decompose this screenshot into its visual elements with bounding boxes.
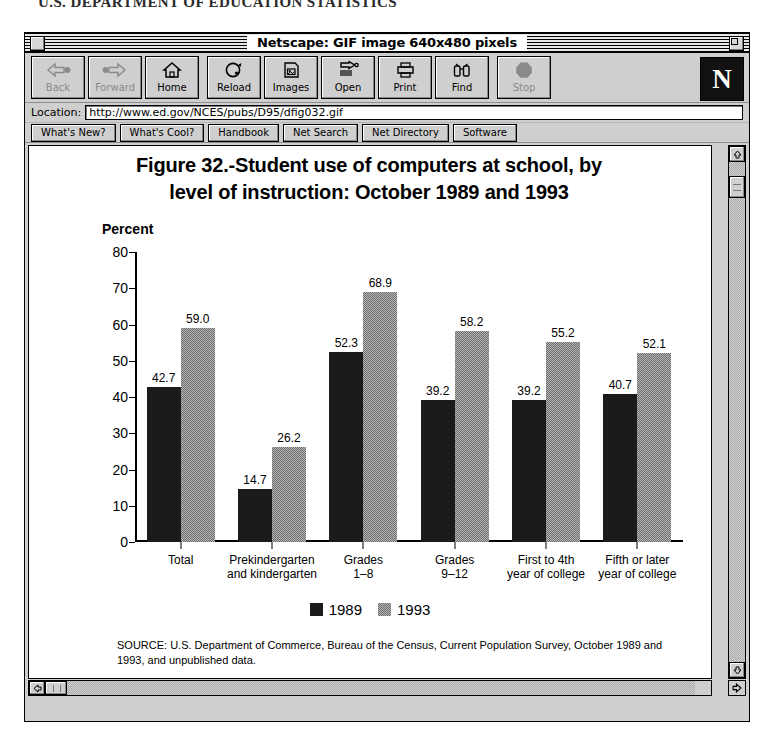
x-category-label: First to 4thyear of college xyxy=(507,553,585,581)
y-tick-label: 50 xyxy=(112,353,128,369)
images-button[interactable]: Images xyxy=(264,56,318,99)
y-tick-mark xyxy=(129,470,135,471)
bar-value-label: 40.7 xyxy=(609,378,632,392)
x-category-label-line: year of college xyxy=(507,567,585,581)
chart-title-line-2: level of instruction: October 1989 and 1… xyxy=(69,179,669,206)
x-tick-mark xyxy=(272,542,273,549)
stop-button[interactable]: Stop xyxy=(497,56,551,99)
location-input[interactable]: http://www.ed.gov/NCES/pubs/D95/dfig032.… xyxy=(85,105,743,120)
bar-1989 xyxy=(147,387,181,542)
chart-source-note: SOURCE: U.S. Department of Commerce, Bur… xyxy=(117,638,687,668)
bar-group: 40.752.1 xyxy=(603,252,671,542)
print-button[interactable]: Print xyxy=(378,56,432,99)
bar-chart-figure: Figure 32.-Student use of computers at s… xyxy=(29,146,711,678)
forward-button[interactable]: Forward xyxy=(88,56,142,99)
home-button-label: Home xyxy=(157,82,187,93)
open-button[interactable]: Open xyxy=(321,56,375,99)
y-tick-label: 30 xyxy=(112,425,128,441)
x-axis-line xyxy=(135,540,683,542)
vertical-scroll-thumb[interactable] xyxy=(729,176,745,198)
x-category-label-line: 1–8 xyxy=(344,567,383,581)
horizontal-scroll-thumb[interactable] xyxy=(45,681,67,695)
y-tick-label: 20 xyxy=(112,462,128,478)
horizontal-scroll-track[interactable] xyxy=(45,681,695,695)
legend-item-1993: 1993 xyxy=(378,601,430,618)
x-category-label-line: year of college xyxy=(598,567,676,581)
page-running-head: U.S. DEPARTMENT OF EDUCATION STATISTICS xyxy=(38,0,458,12)
gif-image-canvas: Figure 32.-Student use of computers at s… xyxy=(28,145,712,679)
x-tick-mark xyxy=(454,542,455,549)
y-tick-mark xyxy=(129,325,135,326)
net-directory-button[interactable]: Net Directory xyxy=(362,124,449,142)
scroll-up-arrow-icon[interactable] xyxy=(729,146,745,162)
x-category-label: Fifth or lateryear of college xyxy=(598,553,676,581)
scroll-right-arrow-icon[interactable] xyxy=(728,680,746,696)
bar-1989 xyxy=(512,400,546,542)
house-icon xyxy=(162,60,182,80)
back-button[interactable]: Back xyxy=(31,56,85,99)
x-tick-mark xyxy=(637,542,638,549)
whats-new-button[interactable]: What's New? xyxy=(31,124,116,142)
chart-title: Figure 32.-Student use of computers at s… xyxy=(69,152,669,206)
reload-button[interactable]: Reload xyxy=(207,56,261,99)
net-search-button[interactable]: Net Search xyxy=(283,124,358,142)
bar-group: 39.255.2 xyxy=(512,252,580,542)
stop-sign-icon xyxy=(514,60,534,80)
legend-label-1989: 1989 xyxy=(329,601,362,618)
y-tick-label: 40 xyxy=(112,389,128,405)
scroll-down-arrow-icon[interactable] xyxy=(729,662,745,678)
x-tick-mark xyxy=(363,542,364,549)
chart-title-line-1: Figure 32.-Student use of computers at s… xyxy=(69,152,669,179)
binoculars-icon xyxy=(452,60,472,80)
bar-value-label: 55.2 xyxy=(551,326,574,340)
y-tick-mark xyxy=(129,542,135,543)
y-tick-label: 10 xyxy=(112,498,128,514)
x-tick-mark xyxy=(546,542,547,549)
bar-1993 xyxy=(181,328,215,542)
x-category-label: Grades9–12 xyxy=(435,553,474,581)
bar-value-label: 14.7 xyxy=(243,473,266,487)
open-icon xyxy=(337,60,359,80)
bar-1993 xyxy=(546,342,580,542)
bar-value-label: 39.2 xyxy=(517,384,540,398)
y-tick-label: 60 xyxy=(112,317,128,333)
software-button[interactable]: Software xyxy=(453,124,517,142)
bar-1989 xyxy=(603,394,637,542)
bar-1989 xyxy=(238,489,272,542)
bar-1993 xyxy=(455,331,489,542)
close-box-icon[interactable] xyxy=(30,36,45,51)
bar-value-label: 52.1 xyxy=(643,337,666,351)
y-tick-label: 70 xyxy=(112,280,128,296)
y-tick-mark xyxy=(129,397,135,398)
find-button-label: Find xyxy=(452,82,473,93)
x-category-label: Total xyxy=(168,553,193,567)
y-tick-label: 80 xyxy=(112,244,128,260)
browser-content-area: Figure 32.-Student use of computers at s… xyxy=(25,143,749,698)
print-button-label: Print xyxy=(393,82,416,93)
vertical-scroll-track[interactable] xyxy=(729,162,745,662)
forward-button-label: Forward xyxy=(95,82,135,93)
bar-value-label: 59.0 xyxy=(186,312,209,326)
zoom-box-icon[interactable] xyxy=(729,36,744,51)
scroll-left-arrow-icon[interactable] xyxy=(29,681,45,695)
handbook-button[interactable]: Handbook xyxy=(208,124,279,142)
directory-buttons-bar: What's New? What's Cool? Handbook Net Se… xyxy=(25,123,749,143)
netscape-logo-letter: N xyxy=(712,64,732,95)
netscape-window: Netscape: GIF image 640x480 pixels Back xyxy=(24,32,750,722)
bar-value-label: 58.2 xyxy=(460,315,483,329)
vertical-scrollbar[interactable] xyxy=(728,145,746,679)
whats-cool-button[interactable]: What's Cool? xyxy=(120,124,205,142)
netscape-logo-icon[interactable]: N xyxy=(700,57,744,101)
bar-value-label: 42.7 xyxy=(152,371,175,385)
window-title-bar[interactable]: Netscape: GIF image 640x480 pixels xyxy=(25,33,749,53)
x-category-label: Grades1–8 xyxy=(344,553,383,581)
y-tick-mark xyxy=(129,252,135,253)
legend-swatch-1989 xyxy=(310,603,323,616)
home-button[interactable]: Home xyxy=(145,56,199,99)
horizontal-scrollbar[interactable] xyxy=(28,680,712,696)
bar-group: 42.759.0 xyxy=(147,252,215,542)
forward-arrow-icon xyxy=(102,60,128,80)
find-button[interactable]: Find xyxy=(435,56,489,99)
bar-group: 14.726.2 xyxy=(238,252,306,542)
y-tick-mark xyxy=(129,361,135,362)
